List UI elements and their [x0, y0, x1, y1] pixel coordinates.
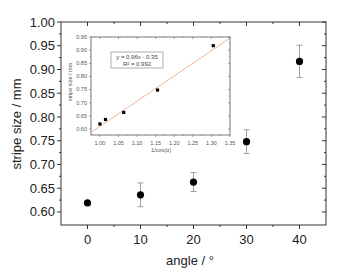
inset-y-axis-title: stripe size / mm [67, 62, 73, 101]
x-tick-label: 20 [186, 232, 200, 247]
y-tick-label: 0.80 [76, 73, 87, 79]
y-tick-label: 0.60 [30, 204, 55, 219]
y-tick-label: 0.95 [30, 38, 55, 53]
main-x-axis-title: angle / ° [166, 253, 214, 268]
y-tick-label: 0.80 [30, 110, 55, 125]
y-tick-label: 0.90 [76, 47, 87, 53]
y-tick-label: 0.75 [30, 133, 55, 148]
y-tick-label: 0.95 [76, 34, 87, 40]
y-tick-label: 0.90 [30, 62, 55, 77]
fit-r-squared: R² = 0.992 [123, 61, 152, 67]
inset-x-axis-title: 1/cos(α) [151, 147, 171, 153]
x-tick-label: 1.30 [206, 140, 217, 146]
chart: 0.600.650.700.750.800.850.900.951.00 010… [0, 0, 339, 275]
x-tick-label: 1.00 [95, 140, 106, 146]
data-point [190, 178, 197, 185]
fit-equation: y = 0.96x - 0.35 [116, 54, 158, 60]
main-y-axis-title: stripe size / mm [9, 78, 24, 169]
y-tick-label: 0.70 [30, 157, 55, 172]
x-tick-label: 1.35 [225, 140, 236, 146]
x-tick-label: 1.10 [132, 140, 143, 146]
fit-equation-box: y = 0.96x - 0.35 R² = 0.992 [111, 52, 163, 68]
x-tick-label: 1.25 [187, 140, 198, 146]
inset-data-point [122, 111, 125, 114]
inset-data-point [212, 44, 215, 47]
inset-plot: 0.600.650.700.750.800.850.900.95 1.001.0… [67, 34, 235, 153]
inset-data-point [104, 118, 107, 121]
x-tick-label: 1.05 [113, 140, 124, 146]
y-tick-label: 0.65 [30, 181, 55, 196]
x-tick-label: 30 [239, 232, 253, 247]
data-point [84, 199, 91, 206]
y-tick-label: 0.70 [76, 100, 87, 106]
data-point [296, 58, 303, 65]
data-point [137, 191, 144, 198]
x-tick-label: 40 [292, 232, 306, 247]
y-tick-label: 1.00 [30, 15, 55, 30]
x-tick-label: 0 [84, 232, 91, 247]
inset-data-point [156, 88, 159, 91]
y-tick-label: 0.65 [76, 113, 87, 119]
x-tick-label: 10 [133, 232, 147, 247]
y-tick-label: 0.60 [76, 126, 87, 132]
y-tick-label: 0.85 [76, 60, 87, 66]
data-point [243, 138, 250, 145]
inset-data-point [98, 122, 101, 125]
x-tick-label: 1.20 [169, 140, 180, 146]
y-tick-label: 0.75 [76, 86, 87, 92]
x-tick-label: 1.15 [150, 140, 161, 146]
y-tick-label: 0.85 [30, 86, 55, 101]
